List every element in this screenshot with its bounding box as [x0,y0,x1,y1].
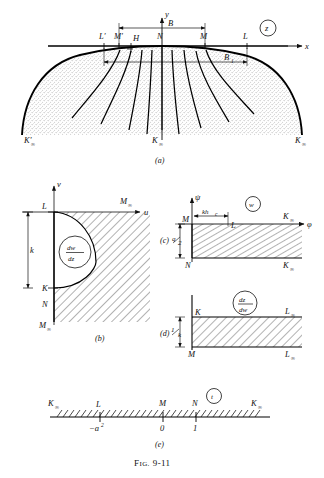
panel-e-point-M: M [158,398,167,408]
panel-c-point-K-inf-bottom-sub: ∞ [290,266,294,272]
panel-e-tick-value-one: 1 [193,423,197,433]
panel-b-point-K: K [41,283,49,293]
panel-b-badge-denominator: dz [68,255,75,263]
plane-badge-z-label: z [264,23,269,33]
panel-d-dimension-denominator: k [178,331,182,339]
caption-number: 9-11 [153,458,171,468]
panel-d-dimension-numerator: 1 [171,326,175,334]
panel-d-point-L-inf-top: L [284,306,290,316]
panel-c-hatched-region [192,224,302,258]
panel-b: u v k dw dz L M ∞ K N M ∞ (b) [22,179,150,343]
panel-d-badge-numerator: dz [239,296,246,304]
panel-b-badge-numerator: dw [67,244,76,252]
panel-a-id: (a) [155,156,165,165]
panel-b-point-L: L [41,201,47,211]
figure-9-11: x y B B 1 L′ M′ H N M L [0,0,324,478]
point-N-label: N [156,31,164,41]
panel-c-point-K-inf-bottom: K [282,260,290,270]
panel-c-point-N: N [184,260,192,270]
panel-e-tick-value-zero: 0 [160,423,165,433]
panel-e-id: (e) [155,440,164,449]
point-H-label: H [132,33,140,43]
panel-d-badge-denominator: dw [239,306,248,314]
panel-d-id: (d) [160,329,170,338]
panel-d-point-K: K [194,307,202,317]
panel-a-K-inf-right: K [294,135,302,145]
panel-c-dimension-q-denominator: 2 [178,239,182,247]
panel-c-dimension-khc-label: kh [202,208,209,216]
panel-b-point-M-inf: M [119,196,128,206]
plane-badge-t-circle [207,389,222,404]
panel-b-dimension-k-label: k [30,245,34,255]
panel-c-point-K-inf-top-sub: ∞ [290,217,294,223]
panel-d-point-L-inf-bottom: L [284,349,290,359]
panel-a-axis-x-label: x [304,41,309,51]
panel-a-K-inf-center-sub: ∞ [159,141,163,147]
panel-c-axis-phi-label: φ [307,219,312,229]
panel-e-point-K-inf-left: K [47,398,55,408]
panel-e-point-K-inf-left-sub: ∞ [55,404,59,410]
panel-c-id: (c) [160,236,169,245]
caption-small-caps: IG. [139,460,149,468]
panel-e-point-K-inf-right-sub: ∞ [258,404,262,410]
panel-b-point-M-inf-sub: ∞ [128,202,132,208]
panel-e-point-L: L [95,399,101,409]
figure-caption: FIG.9-11 [134,458,171,468]
panel-b-point-N: N [41,299,49,309]
panel-a-K-inf-right-sub: ∞ [302,141,306,147]
dimension-B-label: B [168,18,173,28]
panel-b-axis-v-label: v [57,179,61,189]
panel-b-point-M-inf-bottom-sub: ∞ [47,326,51,332]
panel-c-point-M-top: M [181,214,190,224]
dimension-B1-subscript: 1 [231,58,234,64]
panel-b-axis-u-label: u [144,207,148,217]
panel-b-point-M-inf-bottom: M [38,320,47,330]
panel-b-id: (b) [95,334,105,343]
panel-c-axis-psi-label: ψ [195,192,201,202]
panel-e-point-K-inf-right: K [250,398,258,408]
dimension-B1-label: B [224,52,229,62]
point-M-prime-label: M′ [113,31,123,41]
panel-d-point-L-inf-top-sub: ∞ [291,312,295,318]
point-L-prime-label: L′ [98,31,106,41]
panel-d-point-M: M [187,349,196,359]
panel-a-K-prime-inf-left-sub: ∞ [31,141,35,147]
panel-e-tick-value-minus-a2-sup: 2 [101,422,104,428]
panel-a: x y B B 1 L′ M′ H N M L [22,9,309,165]
panel-c: φ ψ kh c q 2 M L K ∞ N K ∞ w (c) [160,192,312,272]
panel-a-K-inf-center: K [151,135,159,145]
point-M-label: M [199,31,208,41]
panel-b-badge-circle [59,236,91,268]
panel-d-point-L-inf-bottom-sub: ∞ [291,355,295,361]
panel-e-point-N: N [191,398,199,408]
point-L-label: L [242,31,248,41]
panel-e-tick-value-minus-a2: −a [89,423,99,433]
panel-e-hatch-group [57,410,260,417]
panel-c-point-K-inf-top: K [282,211,290,221]
svg-text:FIG.9-11: FIG.9-11 [134,458,171,468]
panel-e: K ∞ L M N K ∞ −a 2 0 1 t (e) [47,389,270,450]
panel-d-hatched-region [192,317,302,347]
plane-badge-w-label: w [249,201,254,209]
panel-d: 1 k dz dw K L ∞ M L ∞ (d) [160,291,302,361]
panel-c-point-L: L [230,220,236,230]
